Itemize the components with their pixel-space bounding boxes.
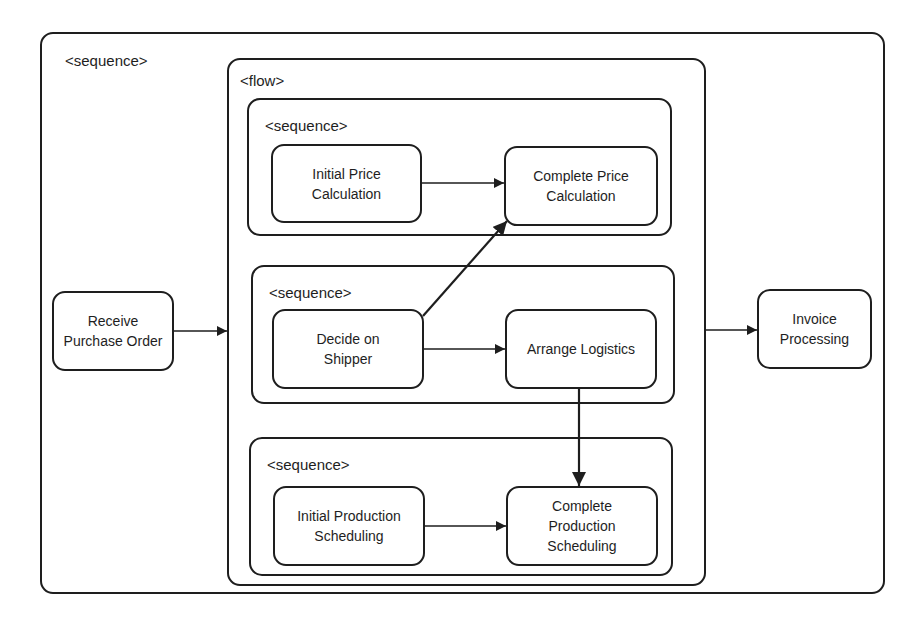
node-invoice-processing: Invoice Processing bbox=[765, 290, 864, 368]
node-receive-purchase-order: Receive Purchase Order bbox=[63, 292, 163, 370]
outer-sequence-label: <sequence> bbox=[65, 52, 148, 69]
sequence-3-label: <sequence> bbox=[267, 456, 350, 473]
sequence-1-label: <sequence> bbox=[265, 117, 348, 134]
node-complete-production-scheduling: Complete Production Scheduling bbox=[537, 487, 627, 565]
node-decide-on-shipper: Decide on Shipper bbox=[298, 310, 398, 388]
sequence-2-label: <sequence> bbox=[269, 284, 352, 301]
node-complete-price-calculation: Complete Price Calculation bbox=[512, 147, 650, 225]
flow-label: <flow> bbox=[240, 72, 284, 89]
node-arrange-logistics: Arrange Logistics bbox=[509, 310, 653, 388]
node-initial-price-calculation: Initial Price Calculation bbox=[282, 145, 411, 222]
node-initial-production-scheduling: Initial Production Scheduling bbox=[278, 487, 420, 565]
